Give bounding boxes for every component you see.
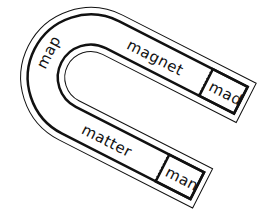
- magnet-illustration: magnet mad matter man map: [0, 0, 258, 212]
